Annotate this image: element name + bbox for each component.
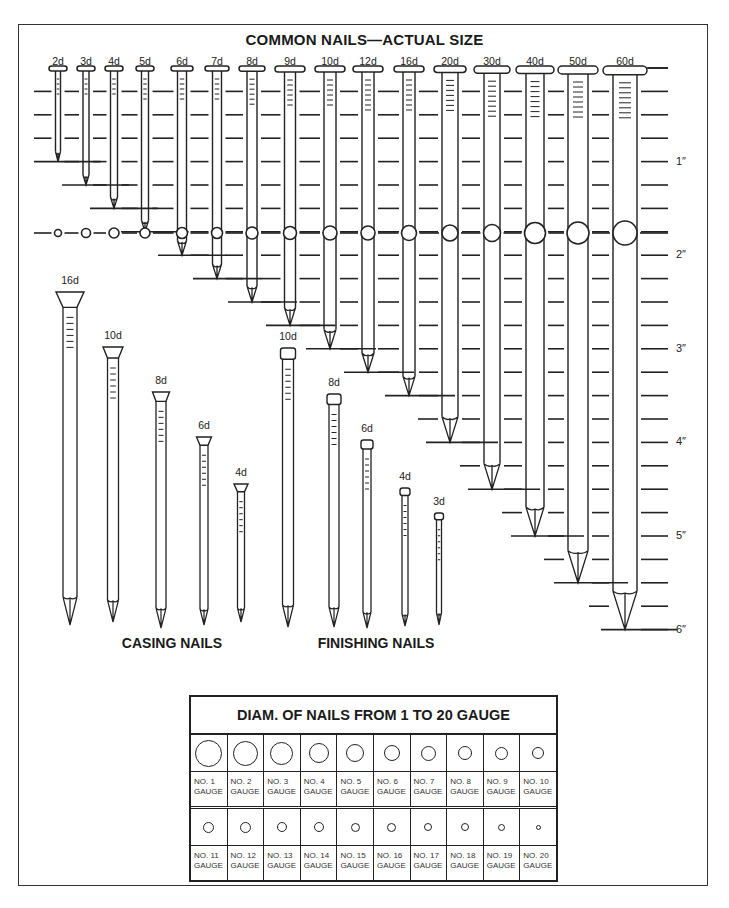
gauge-cell: NO. 3GAUGE bbox=[264, 735, 301, 806]
gauge-diameter-circle bbox=[387, 823, 396, 832]
gauge-word: GAUGE bbox=[450, 787, 483, 797]
gauge-word: GAUGE bbox=[231, 861, 264, 871]
nail-point bbox=[156, 608, 166, 628]
gauge-label: NO. 13GAUGE bbox=[264, 846, 300, 880]
gauge-cell: NO. 10GAUGE bbox=[520, 735, 556, 806]
gauge-word: GAUGE bbox=[267, 787, 300, 797]
nail-point bbox=[56, 152, 61, 162]
gauge-label: NO. 15GAUGE bbox=[337, 846, 373, 880]
gauge-circle-cell bbox=[264, 735, 300, 772]
gauge-word: GAUGE bbox=[523, 787, 556, 797]
gauge-diameter-circle bbox=[458, 746, 472, 760]
finishing-nail-head-3d bbox=[435, 513, 444, 520]
casing-nails-title: CASING NAILS bbox=[122, 635, 222, 651]
gauge-cell: NO. 11GAUGE bbox=[191, 809, 228, 880]
gauge-number: NO. 6 bbox=[377, 777, 410, 787]
casing-nail-label-10d: 10d bbox=[104, 329, 122, 341]
finishing-nail-head-10d bbox=[281, 348, 296, 359]
nail-cross-section-5d bbox=[140, 228, 150, 238]
common-nail-label-30d: 30d bbox=[483, 55, 501, 67]
nail-point bbox=[247, 286, 257, 302]
gauge-number: NO. 11 bbox=[194, 851, 227, 861]
casing-nail-label-8d: 8d bbox=[155, 374, 167, 386]
gauge-cell: NO. 19GAUGE bbox=[484, 809, 521, 880]
nail-point bbox=[178, 241, 187, 255]
gauge-word: GAUGE bbox=[414, 787, 447, 797]
gauge-cell: NO. 9GAUGE bbox=[484, 735, 521, 806]
gauge-cell: NO. 5GAUGE bbox=[337, 735, 374, 806]
inch-label: 3″ bbox=[676, 342, 686, 354]
gauge-label: NO. 5GAUGE bbox=[337, 772, 373, 806]
gauge-number: NO. 19 bbox=[487, 851, 520, 861]
common-nail-label-2d: 2d bbox=[52, 55, 64, 67]
gauge-diameter-circle bbox=[424, 823, 432, 831]
common-nail-label-20d: 20d bbox=[441, 55, 459, 67]
gauge-word: GAUGE bbox=[194, 861, 227, 871]
nail-point bbox=[526, 507, 544, 536]
nail-cross-section-6d bbox=[177, 228, 188, 239]
common-nail-label-16d: 16d bbox=[400, 55, 418, 67]
common-nail-label-50d: 50d bbox=[569, 55, 587, 67]
nail-point bbox=[363, 612, 371, 628]
gauge-word: GAUGE bbox=[194, 787, 227, 797]
gauge-circle-cell bbox=[228, 809, 264, 846]
nail-head-40d bbox=[516, 66, 554, 74]
casing-nail-head-10d bbox=[103, 347, 123, 358]
casing-nail-head-8d bbox=[153, 392, 170, 401]
gauge-cell: NO. 8GAUGE bbox=[447, 735, 484, 806]
gauge-number: NO. 9 bbox=[487, 777, 520, 787]
gauge-label: NO. 3GAUGE bbox=[264, 772, 300, 806]
nail-cross-section-50d bbox=[567, 222, 589, 244]
gauge-diameter-circle bbox=[495, 747, 508, 760]
gauge-word: GAUGE bbox=[523, 861, 556, 871]
gauge-word: GAUGE bbox=[304, 861, 337, 871]
nail-cross-section-20d bbox=[442, 225, 458, 241]
gauge-circle-cell bbox=[484, 735, 520, 772]
gauge-number: NO. 1 bbox=[194, 777, 227, 787]
gauge-diameter-circle bbox=[270, 742, 293, 765]
gauge-table: DIAM. OF NAILS FROM 1 TO 20 GAUGE NO. 1G… bbox=[189, 695, 558, 882]
gauge-circle-cell bbox=[484, 809, 520, 846]
gauge-number: NO. 8 bbox=[450, 777, 483, 787]
gauge-word: GAUGE bbox=[414, 861, 447, 871]
gauge-number: NO. 3 bbox=[267, 777, 300, 787]
gauge-diameter-circle bbox=[532, 747, 544, 759]
common-nail-label-9d: 9d bbox=[284, 55, 296, 67]
gauge-table-title: DIAM. OF NAILS FROM 1 TO 20 GAUGE bbox=[191, 697, 556, 735]
common-nail-label-4d: 4d bbox=[108, 55, 120, 67]
nail-cross-section-60d bbox=[613, 221, 637, 245]
gauge-row-11-20: NO. 11GAUGENO. 12GAUGENO. 13GAUGENO. 14G… bbox=[191, 806, 556, 880]
nail-cross-section-9d bbox=[284, 227, 297, 240]
nail-point bbox=[285, 308, 296, 326]
gauge-diameter-circle bbox=[536, 825, 541, 830]
gauge-cell: NO. 12GAUGE bbox=[228, 809, 265, 880]
gauge-cell: NO. 20GAUGE bbox=[520, 809, 556, 880]
gauge-diameter-circle bbox=[240, 822, 251, 833]
gauge-circle-cell bbox=[337, 809, 373, 846]
gauge-word: GAUGE bbox=[377, 861, 410, 871]
finishing-nail-label-3d: 3d bbox=[433, 495, 445, 507]
inch-label: 2″ bbox=[676, 248, 686, 260]
gauge-cell: NO. 16GAUGE bbox=[374, 809, 411, 880]
gauge-circle-cell bbox=[191, 735, 227, 772]
gauge-label: NO. 16GAUGE bbox=[374, 846, 410, 880]
inch-label: 6″ bbox=[676, 623, 686, 635]
nail-cross-section-12d bbox=[361, 226, 375, 240]
finishing-nail-head-4d bbox=[400, 488, 410, 496]
gauge-label: NO. 18GAUGE bbox=[447, 846, 483, 880]
gauge-number: NO. 15 bbox=[340, 851, 373, 861]
gauge-diameter-circle bbox=[346, 744, 364, 762]
gauge-label: NO. 10GAUGE bbox=[520, 772, 556, 806]
nail-point bbox=[437, 613, 442, 625]
nail-cross-section-4d bbox=[109, 228, 119, 238]
gauge-circle-cell bbox=[337, 735, 373, 772]
nail-point bbox=[403, 376, 415, 395]
gauge-diameter-circle bbox=[314, 822, 324, 832]
gauge-label: NO. 9GAUGE bbox=[484, 772, 520, 806]
gauge-circle-cell bbox=[191, 809, 227, 846]
nail-cross-section-7d bbox=[212, 228, 223, 239]
gauge-number: NO. 16 bbox=[377, 851, 410, 861]
nail-point bbox=[238, 608, 245, 622]
gauge-circle-cell bbox=[301, 735, 337, 772]
casing-nail-label-6d: 6d bbox=[198, 419, 210, 431]
